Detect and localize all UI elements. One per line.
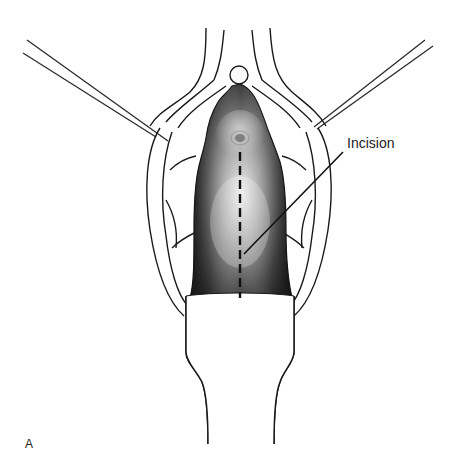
meatus bbox=[230, 66, 248, 84]
panel-letter: A bbox=[25, 437, 33, 451]
left-retractor-suture bbox=[23, 40, 168, 141]
incision-label: Incision bbox=[347, 135, 394, 151]
right-retractor-suture bbox=[314, 40, 433, 129]
surgical-illustration: Incision A bbox=[0, 0, 459, 474]
